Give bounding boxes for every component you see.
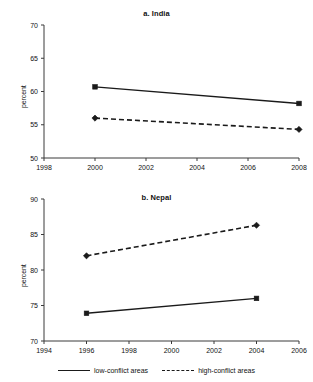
- legend-swatch-solid-line-icon: [58, 370, 90, 371]
- figure-two-panel-line-charts: a. India percent 50556065701998200020022…: [0, 0, 313, 382]
- data-point-square-marker: [84, 311, 89, 316]
- x-tick-label: 1994: [36, 347, 52, 354]
- plot-area-india: 5055606570199820002002200420062008: [0, 0, 313, 185]
- data-point-diamond-marker: [83, 253, 89, 259]
- x-tick-label: 1996: [79, 347, 95, 354]
- series-line-solid: [95, 87, 299, 104]
- data-point-diamond-marker: [92, 115, 98, 121]
- data-point-diamond-marker: [253, 222, 259, 228]
- data-point-square-marker: [254, 296, 259, 301]
- y-tick-label: 50: [30, 155, 38, 162]
- x-tick-label: 1998: [36, 164, 52, 171]
- x-tick-label: 2002: [138, 164, 154, 171]
- y-tick-label: 65: [30, 55, 38, 62]
- x-tick-label: 2004: [249, 347, 265, 354]
- legend-item-low-conflict: low-conflict areas: [58, 367, 148, 374]
- data-point-diamond-marker: [296, 126, 302, 132]
- series-line-solid: [87, 298, 257, 313]
- y-tick-label: 90: [30, 196, 38, 203]
- chart-panel-nepal: b. Nepal percent 70758085901994199619982…: [0, 183, 313, 361]
- x-tick-label: 2008: [291, 164, 307, 171]
- x-tick-label: 2006: [240, 164, 256, 171]
- series-line-dashed: [95, 118, 299, 129]
- legend-label-high-conflict: high-conflict areas: [198, 367, 255, 374]
- chart-panel-india: a. India percent 50556065701998200020022…: [0, 0, 313, 185]
- x-tick-label: 1998: [121, 347, 137, 354]
- data-point-square-marker: [93, 85, 98, 90]
- x-tick-label: 2002: [206, 347, 222, 354]
- y-tick-label: 70: [30, 338, 38, 345]
- x-tick-label: 2006: [291, 347, 307, 354]
- x-tick-label: 2000: [164, 347, 180, 354]
- legend-swatch-dashed-line-icon: [162, 370, 194, 371]
- y-tick-label: 75: [30, 302, 38, 309]
- y-tick-label: 85: [30, 231, 38, 238]
- y-tick-label: 80: [30, 267, 38, 274]
- plot-area-nepal: 70758085901994199619982000200220042006: [0, 183, 313, 361]
- legend-label-low-conflict: low-conflict areas: [94, 367, 148, 374]
- y-tick-label: 55: [30, 121, 38, 128]
- legend-item-high-conflict: high-conflict areas: [162, 367, 255, 374]
- y-tick-label: 70: [30, 22, 38, 29]
- x-tick-label: 2004: [189, 164, 205, 171]
- x-tick-label: 2000: [87, 164, 103, 171]
- data-point-square-marker: [297, 101, 302, 106]
- chart-legend: low-conflict areas high-conflict areas: [0, 360, 313, 380]
- y-tick-label: 60: [30, 88, 38, 95]
- series-line-dashed: [87, 225, 257, 256]
